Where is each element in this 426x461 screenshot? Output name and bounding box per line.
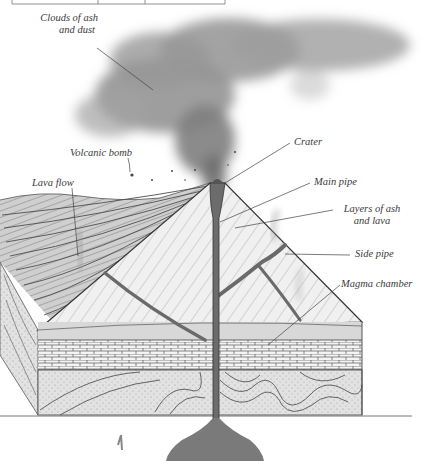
sediment-layer xyxy=(38,322,362,370)
label-lava-flow: Lava flow xyxy=(32,177,74,189)
label-layers-line2: and lava xyxy=(334,215,410,227)
volcano-diagram: Clouds of ash and dust Volcanic bomb Lav… xyxy=(0,0,426,461)
label-side-pipe: Side pipe xyxy=(355,248,394,260)
magma-chamber xyxy=(166,418,264,461)
label-clouds-line2: and dust xyxy=(32,24,98,36)
label-main-pipe: Main pipe xyxy=(314,176,357,188)
label-layers-line1: Layers of ash xyxy=(334,203,410,215)
label-magma-chamber: Magma chamber xyxy=(341,278,412,290)
table-fragment xyxy=(12,0,225,4)
stray-mark xyxy=(118,435,122,450)
ash-cloud xyxy=(75,18,410,195)
label-volcanic-bomb: Volcanic bomb xyxy=(70,147,132,159)
label-crater: Crater xyxy=(294,136,322,148)
volcano-illustration xyxy=(0,0,426,461)
label-clouds-line1: Clouds of ash xyxy=(32,12,98,24)
label-layers-of-ash: Layers of ash and lava xyxy=(334,203,410,227)
label-clouds-of-ash: Clouds of ash and dust xyxy=(32,12,98,36)
